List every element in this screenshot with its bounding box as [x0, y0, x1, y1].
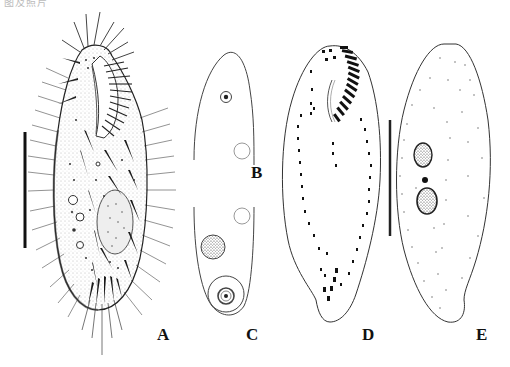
panel-label-a: A [157, 326, 169, 343]
panel-label-b: B [251, 164, 262, 181]
panel-c-drawing [194, 207, 254, 315]
scientific-figure: 图及照片 [0, 0, 510, 367]
panel-label-d: D [362, 326, 374, 343]
panel-a-drawing [25, 12, 176, 355]
panel-d-drawing [282, 46, 380, 322]
panel-b-drawing [194, 52, 254, 165]
panel-label-c: C [246, 326, 258, 343]
panel-e-drawing [390, 44, 490, 322]
figure-drawing [0, 0, 510, 367]
panel-label-e: E [476, 326, 487, 343]
